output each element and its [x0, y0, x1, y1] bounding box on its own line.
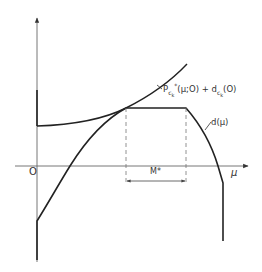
sub2-k: k	[220, 92, 223, 98]
upper-curve-label: Pck*(μ;O) + dck(O)	[163, 85, 236, 94]
x-axis-label: μ	[231, 168, 237, 178]
origin-label: O	[29, 167, 37, 177]
d-curve-label: d(μ)	[211, 118, 228, 127]
upper-curve-label-sub: ck	[168, 89, 174, 96]
upper-curve-label-args: (μ;O) + d	[177, 84, 217, 94]
dimension-label: M*	[150, 168, 161, 176]
upper-curve-label-sub2: ck	[217, 89, 223, 96]
diagram-canvas	[0, 0, 262, 272]
upper-curve-label-sup: *	[174, 82, 177, 89]
sub-k: k	[171, 92, 174, 98]
upper-curve-label-args2: (O)	[223, 84, 236, 94]
d-curve	[37, 108, 223, 260]
